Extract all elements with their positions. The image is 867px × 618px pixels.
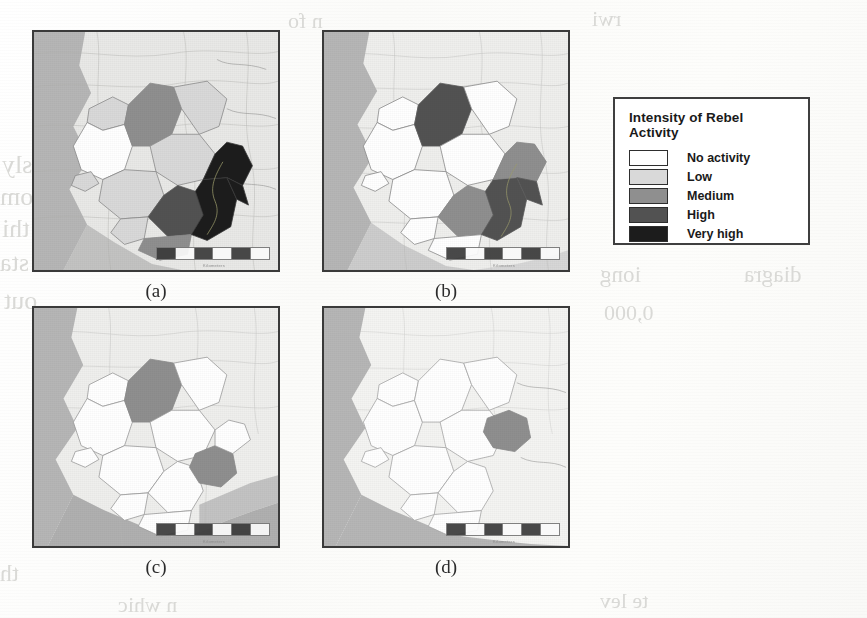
map-panel-d: Kilometers (d) bbox=[322, 306, 570, 596]
map-caption-b: (b) bbox=[322, 280, 570, 302]
legend-label: Low bbox=[687, 170, 712, 184]
legend-swatch bbox=[629, 207, 668, 223]
map-graphic-d bbox=[324, 308, 568, 546]
map-panel-c: Kilometers (c) bbox=[32, 306, 280, 596]
scale-bar-caption-d: Kilometers bbox=[448, 539, 560, 544]
legend-row: Low bbox=[629, 169, 794, 185]
legend-swatch bbox=[629, 150, 668, 166]
legend-label: High bbox=[687, 208, 715, 222]
scale-bar-b bbox=[446, 247, 560, 260]
legend-row: Medium bbox=[629, 188, 794, 204]
map-frame-d[interactable]: Kilometers bbox=[322, 306, 570, 548]
scale-bar-caption-c: Kilometers bbox=[158, 539, 270, 544]
legend-row: High bbox=[629, 207, 794, 223]
map-frame-c[interactable]: Kilometers bbox=[32, 306, 280, 548]
legend-title: Intensity of Rebel Activity bbox=[629, 110, 794, 140]
legend-label: Very high bbox=[687, 227, 743, 241]
scale-bar-c bbox=[156, 523, 270, 536]
legend-row: No activity bbox=[629, 150, 794, 166]
map-panel-a: Kilometers (a) bbox=[32, 30, 280, 316]
legend-row: Very high bbox=[629, 226, 794, 242]
map-caption-d: (d) bbox=[322, 556, 570, 578]
legend-panel: Intensity of Rebel Activity No activityL… bbox=[613, 97, 810, 245]
scale-bar-caption-a: Kilometers bbox=[158, 263, 270, 268]
legend-items: No activityLowMediumHighVery high bbox=[629, 150, 794, 242]
legend-swatch bbox=[629, 226, 668, 242]
map-panel-b: Kilometers (b) bbox=[322, 30, 570, 316]
map-graphic-b bbox=[324, 32, 568, 270]
legend-swatch bbox=[629, 188, 668, 204]
map-frame-a[interactable]: Kilometers bbox=[32, 30, 280, 272]
scale-bar-caption-b: Kilometers bbox=[448, 263, 560, 268]
legend-label: Medium bbox=[687, 189, 734, 203]
map-caption-c: (c) bbox=[32, 556, 280, 578]
scale-bar-d bbox=[446, 523, 560, 536]
map-graphic-c bbox=[34, 308, 278, 546]
legend-label: No activity bbox=[687, 151, 750, 165]
legend-swatch bbox=[629, 169, 668, 185]
map-frame-b[interactable]: Kilometers bbox=[322, 30, 570, 272]
scale-bar-a bbox=[156, 247, 270, 260]
map-caption-a: (a) bbox=[32, 280, 280, 302]
map-graphic-a bbox=[34, 32, 278, 270]
